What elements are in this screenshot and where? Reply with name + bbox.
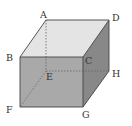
vertex-label-d: D (112, 12, 120, 23)
cube-front-face (20, 57, 83, 107)
cube-diagram: A D B C E H F G (0, 0, 132, 126)
vertex-label-g: G (82, 109, 90, 120)
vertex-label-h: H (112, 68, 120, 79)
vertex-label-c: C (85, 55, 92, 66)
vertex-label-a: A (39, 9, 47, 20)
vertex-label-e: E (46, 71, 53, 82)
vertex-label-b: B (6, 52, 13, 63)
vertex-label-f: F (6, 104, 13, 115)
